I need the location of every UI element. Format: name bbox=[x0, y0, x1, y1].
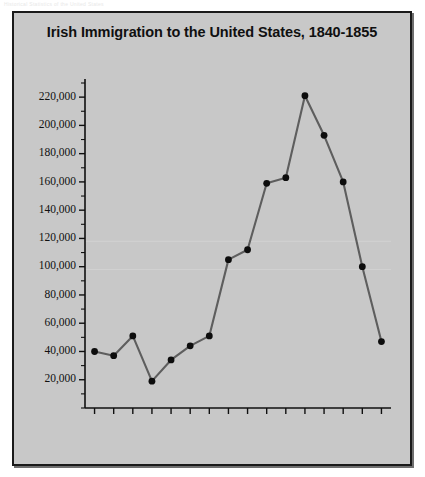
svg-text:220,000: 220,000 bbox=[39, 90, 77, 103]
faint-header-text: Historical Statistics of the United Stat… bbox=[4, 1, 104, 7]
svg-text:200,000: 200,000 bbox=[39, 118, 77, 131]
svg-text:160,000: 160,000 bbox=[39, 175, 77, 188]
svg-text:140,000: 140,000 bbox=[39, 203, 77, 216]
svg-text:40,000: 40,000 bbox=[44, 344, 76, 357]
y-axis-labels: 20,00040,00060,00080,000100,000120,00014… bbox=[39, 90, 77, 386]
svg-text:180,000: 180,000 bbox=[39, 146, 77, 159]
line-chart-svg: 20,00040,00060,00080,000100,000120,00014… bbox=[14, 13, 414, 468]
immigration-series-line bbox=[95, 96, 382, 381]
y-axis-ticks bbox=[79, 83, 85, 408]
svg-text:100,000: 100,000 bbox=[39, 259, 77, 272]
svg-text:60,000: 60,000 bbox=[44, 316, 76, 329]
svg-text:80,000: 80,000 bbox=[44, 288, 76, 301]
svg-text:20,000: 20,000 bbox=[44, 372, 76, 385]
svg-text:120,000: 120,000 bbox=[39, 231, 77, 244]
chart-figure: Irish Immigration to the United States, … bbox=[12, 11, 412, 466]
plot-area: 20,00040,00060,00080,000100,000120,00014… bbox=[14, 13, 414, 468]
x-axis-ticks bbox=[95, 408, 382, 414]
